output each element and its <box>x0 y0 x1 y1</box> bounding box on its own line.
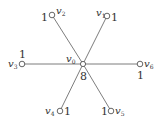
node-weight-v4: 1 <box>64 105 71 118</box>
node-label-v0: v0 <box>66 53 76 65</box>
node-label-v5: v5 <box>115 105 125 117</box>
edge-v0-v5 <box>83 64 111 111</box>
node-weight-v2: 1 <box>41 11 48 24</box>
node-v3 <box>19 61 25 67</box>
node-v0 <box>80 61 85 66</box>
node-label-v6: v6 <box>144 58 154 70</box>
node-label-v2: v2 <box>56 5 66 17</box>
node-weight-v6: 1 <box>137 69 144 82</box>
node-v5 <box>108 108 114 114</box>
node-weight-v5: 1 <box>101 105 108 118</box>
node-label-v1: v1 <box>96 7 105 19</box>
node-weight-v0: 8 <box>80 70 87 83</box>
edge-v0-v1 <box>83 16 107 64</box>
star-graph: v0 8 v1 1 1 v2 v3 1 v4 1 1 v5 v6 1 <box>0 0 158 129</box>
node-weight-v1: 1 <box>111 11 118 24</box>
node-weight-v3: 1 <box>19 48 26 61</box>
node-label-v4: v4 <box>45 105 55 117</box>
node-v6 <box>137 61 143 67</box>
node-v2 <box>49 12 55 18</box>
node-v4 <box>57 108 63 114</box>
nodes <box>19 12 143 114</box>
node-label-v3: v3 <box>8 58 18 70</box>
